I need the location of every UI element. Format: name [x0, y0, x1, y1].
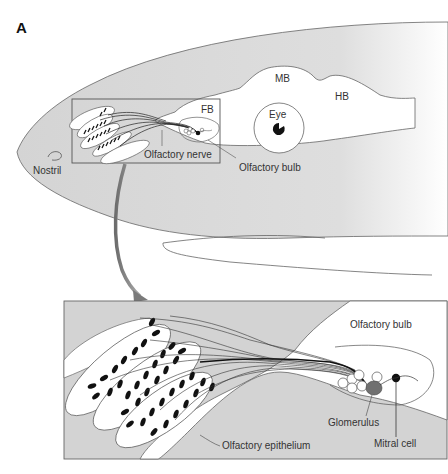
panel-label: A — [16, 19, 27, 36]
label-midbrain: MB — [275, 73, 290, 84]
label-forebrain: FB — [201, 104, 214, 115]
label-mitral-cell: Mitral cell — [374, 438, 416, 449]
label-eye: Eye — [269, 109, 287, 120]
olfactory-system-diagram: A MB HB FB Eye Nostril Olfactory nerve O… — [0, 0, 448, 474]
label-olfactory-bulb-top: Olfactory bulb — [239, 162, 301, 173]
label-glomerulus: Glomerulus — [328, 417, 379, 428]
glomerulus — [366, 381, 382, 395]
zoom-arrowhead — [133, 290, 148, 302]
label-olfactory-nerve: Olfactory nerve — [144, 149, 212, 160]
label-olfactory-bulb-inset: Olfactory bulb — [350, 319, 412, 330]
label-nostril: Nostril — [33, 165, 61, 176]
jaw-lower-line — [163, 243, 432, 275]
glomerulus-small — [196, 131, 201, 136]
label-hindbrain: HB — [335, 91, 349, 102]
label-olfactory-epithelium: Olfactory epithelium — [222, 440, 310, 451]
